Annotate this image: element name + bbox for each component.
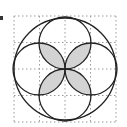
flower-diagram (0, 0, 127, 127)
